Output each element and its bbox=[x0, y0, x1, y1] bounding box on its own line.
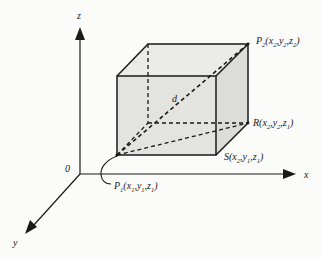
x-axis-label: x bbox=[303, 169, 309, 180]
3d-distance-diagram: z x y 0 d P2(x2,y2,z2) R(x2,y2,z1) S(x2,… bbox=[0, 0, 322, 257]
p1-label: P1(x1,y1,z1) bbox=[113, 180, 158, 193]
z-axis-label: z bbox=[76, 10, 81, 21]
r-label: R(x2,y2,z1) bbox=[252, 117, 294, 130]
y-arrow-icon bbox=[25, 220, 37, 234]
rectangular-box bbox=[115, 43, 249, 157]
s-label: S(x2,y1,z1) bbox=[224, 151, 264, 164]
y-axis-label: y bbox=[12, 237, 18, 248]
y-axis bbox=[33, 174, 80, 226]
point-r-marker bbox=[247, 122, 250, 125]
point-p2-marker bbox=[247, 43, 250, 46]
z-arrow-icon bbox=[75, 27, 85, 40]
origin-label: 0 bbox=[65, 163, 70, 174]
x-arrow-icon bbox=[283, 169, 296, 179]
p2-label: P2(x2,y2,z2) bbox=[255, 35, 300, 48]
